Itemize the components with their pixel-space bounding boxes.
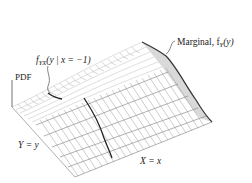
- joint-pdf-diagram: fYX(y | x = −1) PDF Marginal, fY(y) Y = …: [0, 0, 252, 183]
- conditional-label: fYX(y | x = −1): [36, 55, 91, 66]
- conditional-leader: [48, 66, 50, 93]
- y-axis-label: Y = y: [18, 140, 39, 150]
- marginal-leader: [166, 41, 175, 54]
- marginal-label: Marginal, fY(y): [177, 37, 234, 48]
- x-axis-label: X = x: [139, 156, 162, 166]
- pdf-axis-label: PDF: [15, 72, 32, 82]
